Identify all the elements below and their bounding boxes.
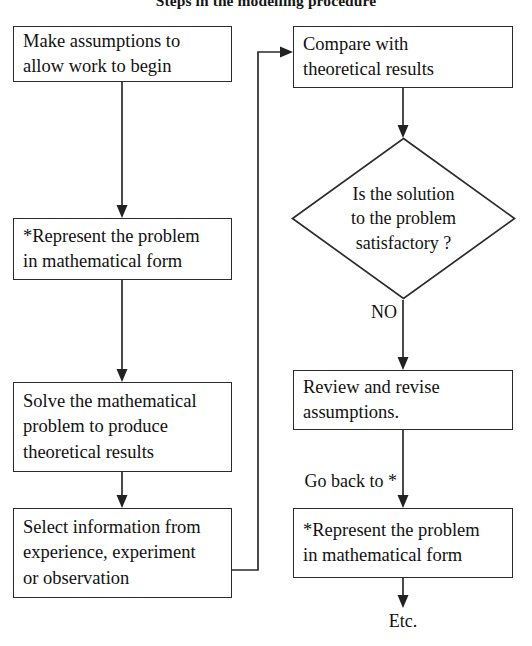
node-is-solution-satisfactory: Is the solution to the problem satisfact… <box>291 137 516 300</box>
node-line: problem to produce <box>23 414 227 439</box>
node-review-revise: Review and revise assumptions. <box>293 370 513 430</box>
arrow-head-decision-no-to-review <box>398 357 409 370</box>
node-line: theoretical results <box>23 440 227 465</box>
arrow-head-assumptions-to-represent <box>117 205 128 218</box>
connector-select-to-compare <box>232 52 285 570</box>
node-make-assumptions: Make assumptions to allow work to begin <box>13 26 232 82</box>
flowchart-canvas: Steps in the modelling procedure Make as… <box>0 0 532 646</box>
node-select-information: Select information from experience, expe… <box>13 508 232 598</box>
node-compare-results: Compare with theoretical results <box>293 26 513 88</box>
node-line: Review and revise <box>303 375 508 400</box>
node-line: *Represent the problem <box>23 224 227 249</box>
node-line: allow work to begin <box>23 54 227 79</box>
arrow-head-represent-to-etc <box>398 595 409 608</box>
node-line: in mathematical form <box>23 249 227 274</box>
node-line: theoretical results <box>303 57 508 82</box>
edge-label-decision-no: NO <box>371 303 397 321</box>
node-line: assumptions. <box>303 400 508 425</box>
node-line: Is the solution <box>353 182 455 206</box>
node-solve-problem: Solve the mathematical problem to produc… <box>13 382 232 472</box>
arrow-head-solve-to-select <box>117 495 128 508</box>
decision-text: Is the solution to the problem satisfact… <box>291 137 516 300</box>
arrow-head-review-to-represent <box>398 495 409 508</box>
node-line: satisfactory ? <box>356 231 451 255</box>
node-represent-problem: *Represent the problem in mathematical f… <box>13 218 232 280</box>
node-line: in mathematical form <box>303 543 508 568</box>
node-line: or observation <box>23 566 227 591</box>
node-represent-problem-again: *Represent the problem in mathematical f… <box>293 508 513 578</box>
edge-label-go-back: Go back to * <box>305 472 397 490</box>
node-line: Compare with <box>303 32 508 57</box>
node-line: Solve the mathematical <box>23 389 227 414</box>
page-title: Steps in the modelling procedure <box>0 0 532 10</box>
arrow-head-select-to-compare <box>280 47 293 58</box>
terminal-label-etc: Etc. <box>389 612 418 630</box>
node-line: *Represent the problem <box>303 518 508 543</box>
node-line: Make assumptions to <box>23 29 227 54</box>
node-line: experience, experiment <box>23 540 227 565</box>
node-line: to the problem <box>351 206 456 230</box>
node-line: Select information from <box>23 515 227 540</box>
arrow-head-represent-to-solve <box>117 369 128 382</box>
